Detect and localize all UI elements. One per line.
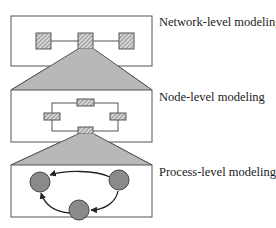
- process-state-1: [30, 172, 50, 192]
- node-module-top: [77, 99, 94, 106]
- process-level-label: Process-level modeling: [159, 165, 276, 180]
- process-level-box: [11, 165, 152, 220]
- node-module-right: [110, 113, 126, 120]
- network-level-label: Network-level modeling: [159, 15, 276, 30]
- node-module-left: [44, 113, 60, 120]
- network-node-1: [36, 33, 51, 49]
- process-state-2: [109, 170, 129, 190]
- node-module-bottom: [78, 127, 93, 134]
- hierarchy-diagram: [0, 0, 276, 228]
- process-state-3: [69, 200, 89, 220]
- network-node-3: [119, 33, 134, 49]
- network-node-2: [78, 33, 93, 49]
- node-level-label: Node-level modeling: [159, 90, 265, 105]
